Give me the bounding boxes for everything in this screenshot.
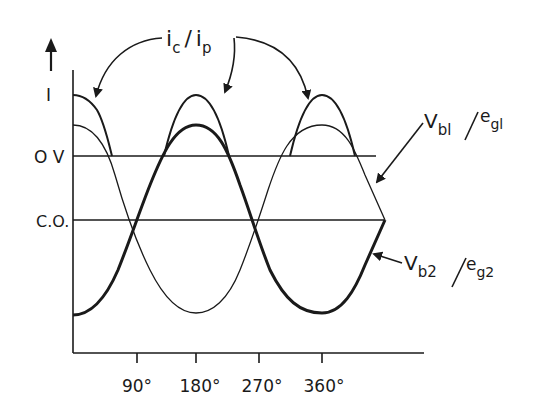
- x-tick-180: 180°: [180, 376, 221, 396]
- vb1-pointer-arrow: [377, 123, 423, 182]
- svg-text:Vb2: Vb2: [404, 251, 437, 281]
- x-tick-360: 360°: [304, 376, 345, 396]
- x-tick-labels: 90° 180° 270° 360°: [122, 376, 345, 396]
- vb1-label: Vbl egl: [424, 106, 503, 140]
- vb2-pointer-arrow: [374, 254, 402, 263]
- svg-text:ic/ip: ic/ip: [166, 26, 211, 57]
- current-label: ic/ip: [166, 26, 211, 57]
- current-axis-arrow-icon: [45, 38, 57, 71]
- svg-text:Vbl: Vbl: [424, 109, 451, 139]
- vacuum-tube-waveform-diagram: I O V C.O. 90° 180° 270° 360° ic/ip Vbl …: [0, 0, 540, 410]
- x-ticks: [137, 353, 322, 363]
- y-label-cutoff: C.O.: [36, 212, 69, 231]
- svg-text:eg2: eg2: [466, 254, 494, 280]
- vb2-label: Vb2 eg2: [404, 251, 494, 287]
- y-label-zero-volt: O V: [34, 147, 65, 167]
- x-tick-90: 90°: [122, 376, 152, 396]
- y-label-current: I: [46, 85, 51, 105]
- x-tick-270: 270°: [242, 376, 283, 396]
- svg-text:egl: egl: [480, 106, 503, 132]
